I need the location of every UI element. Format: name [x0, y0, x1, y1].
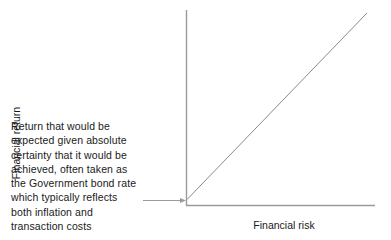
x-axis-label: Financial risk — [224, 219, 344, 231]
risk-return-plot — [0, 0, 391, 240]
risk-return-line — [187, 13, 367, 200]
y-axis-label: Financial return — [10, 83, 22, 203]
risk-return-figure: Return that would be expected given abso… — [0, 0, 391, 240]
